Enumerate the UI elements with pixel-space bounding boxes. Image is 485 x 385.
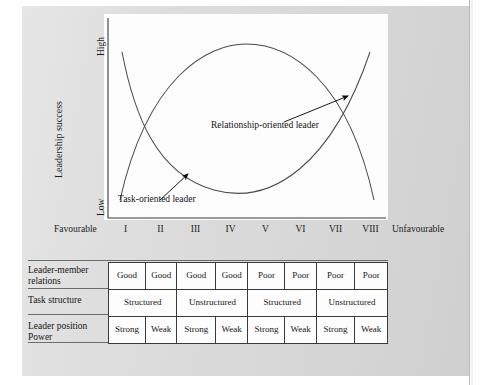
clipped-top-caption (118, 0, 368, 3)
contingency-table-body: GoodGoodGoodGoodPoorPoorPoorPoorStructur… (109, 263, 388, 344)
row-label-leader-member-relations: Leader-member relations (28, 265, 106, 286)
table-cell-r2-c2: Strong (177, 317, 215, 344)
x-axis-tick-viii: VIII (353, 224, 388, 234)
x-axis-favourable-label: Favourable (54, 224, 97, 234)
table-cell-r0-c2: Good (177, 263, 215, 290)
table-cell-r2-c1: Weak (146, 317, 177, 344)
table-cell-r2-c0: Strong (109, 317, 146, 344)
relationship-oriented-leader-label: Relationship-oriented leader (211, 120, 319, 130)
table-cell-r2-c5: Weak (285, 317, 316, 344)
table-row: StrongWeakStrongWeakStrongWeakStrongWeak (109, 317, 388, 344)
figure-root: Leadership success High Low Favourable U… (0, 0, 485, 385)
page-outer-margin (471, 0, 473, 385)
x-axis-tick-ii: II (143, 224, 178, 234)
x-axis-tick-vii: VII (318, 224, 353, 234)
table-cell-r0-c0: Good (109, 263, 146, 290)
y-axis-low-label: Low (96, 199, 106, 216)
table-cell-r0-c3: Good (215, 263, 248, 290)
table-rule-top (28, 260, 388, 261)
table-cell-r1-c1: Unstructured (177, 290, 248, 317)
table-cell-r2-c7: Weak (355, 317, 388, 344)
table-cell-r0-c6: Poor (316, 263, 354, 290)
x-axis-unfavourable-label: Unfavourable (392, 224, 444, 234)
x-axis-tick-iv: IV (213, 224, 248, 234)
contingency-table: GoodGoodGoodGoodPoorPoorPoorPoorStructur… (108, 262, 388, 344)
table-cell-r1-c2: Structured (248, 290, 316, 317)
table-cell-r2-c3: Weak (215, 317, 248, 344)
x-axis-tick-vi: VI (283, 224, 318, 234)
chart-svg (104, 14, 388, 220)
x-axis-tick-iii: III (178, 224, 213, 234)
relationship-label-arrow (284, 96, 348, 122)
table-cell-r1-c0: Structured (109, 290, 177, 317)
y-axis-title: Leadership success (53, 101, 64, 178)
table-cell-r0-c5: Poor (285, 263, 316, 290)
table-cell-r1-c3: Unstructured (316, 290, 387, 317)
chart-plot-area (104, 14, 388, 220)
table-cell-r2-c6: Strong (316, 317, 354, 344)
row-label-leader-position-power: Leader position Power (28, 321, 106, 342)
table-cell-r0-c1: Good (146, 263, 177, 290)
task-oriented-leader-label: Task-oriented leader (118, 194, 196, 204)
row-label-task-structure: Task structure (28, 295, 81, 306)
table-row: StructuredUnstructuredStructuredUnstruct… (109, 290, 388, 317)
x-axis-tick-i: I (108, 224, 143, 234)
table-cell-r0-c4: Poor (248, 263, 285, 290)
page-edge-line (469, 0, 470, 385)
x-axis-tick-v: V (248, 224, 283, 234)
y-axis-high-label: High (96, 37, 106, 56)
table-cell-r0-c7: Poor (355, 263, 388, 290)
table-cell-r2-c4: Strong (248, 317, 285, 344)
table-row: GoodGoodGoodGoodPoorPoorPoorPoor (109, 263, 388, 290)
